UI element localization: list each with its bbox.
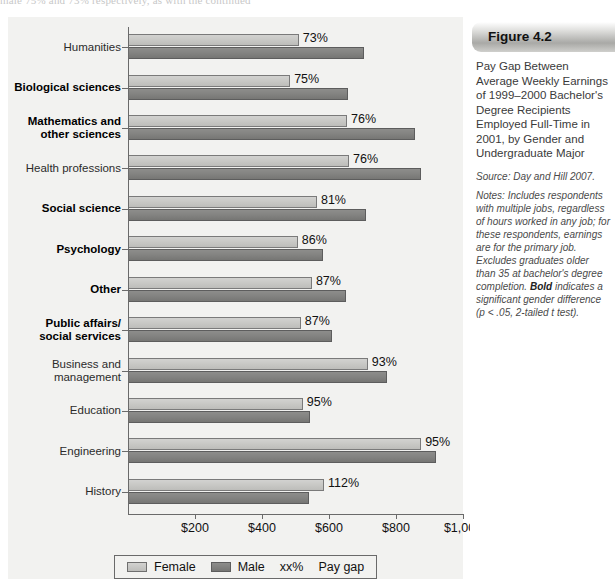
x-axis-tick (463, 514, 464, 519)
legend-swatch-female-icon (127, 562, 147, 572)
category-label: Humanities (0, 41, 121, 54)
figure-caption: Pay Gap Between Average Weekly Earnings … (476, 59, 610, 161)
x-axis-tick-label: $600 (315, 521, 343, 535)
bar-female (128, 277, 312, 289)
x-axis-tick (195, 514, 196, 519)
pay-gap-value-label: 112% (328, 476, 359, 490)
bar-male (128, 249, 323, 261)
bar-male (128, 290, 346, 302)
bar-female (128, 317, 301, 329)
x-axis-tick (396, 514, 397, 519)
pay-gap-value-label: 81% (321, 193, 346, 207)
figure-number-label: Figure 4.2 (488, 29, 552, 44)
y-axis-line (128, 27, 129, 514)
bar-male (128, 411, 310, 423)
x-axis-tick-label: $800 (382, 521, 410, 535)
category-label: Social science (0, 202, 121, 215)
pay-gap-value-label: 93% (372, 355, 397, 369)
pay-gap-value-label: 75% (294, 72, 319, 86)
chart-category-row: Mathematics and other sciences76% (128, 115, 463, 133)
chart-legend: Female Male xx% Pay gap (114, 555, 377, 579)
category-label: Business and management (0, 358, 121, 384)
pay-gap-value-label: 86% (302, 233, 327, 247)
category-label: Engineering (0, 445, 121, 458)
pay-gap-value-label: 95% (307, 395, 332, 409)
bar-female (128, 398, 303, 410)
category-label: Public affairs/ social services (0, 317, 121, 343)
category-label: Education (0, 404, 121, 417)
x-axis-tick (262, 514, 263, 519)
category-label: Health professions (0, 162, 121, 175)
pay-gap-value-label: 95% (425, 435, 450, 449)
category-label: Mathematics and other sciences (0, 115, 121, 141)
bar-female (128, 75, 290, 87)
category-label: Other (0, 283, 121, 296)
figure-notes-bold-keyword: Bold (530, 281, 552, 292)
chart-category-row: Biological sciences75% (128, 75, 463, 93)
x-axis-line (128, 514, 464, 515)
bar-female (128, 479, 324, 491)
bar-female (128, 115, 347, 127)
bar-male (128, 371, 387, 383)
category-label: Psychology (0, 243, 121, 256)
chart-category-row: Humanities73% (128, 34, 463, 52)
x-axis-tick (329, 514, 330, 519)
chart-category-row: Social science81% (128, 196, 463, 214)
figure-source: Source: Day and Hill 2007. (476, 170, 610, 183)
x-axis-tick-label: $400 (248, 521, 276, 535)
bar-female (128, 155, 349, 167)
chart-panel: Humanities73%Biological sciences75%Mathe… (8, 17, 463, 579)
figure-notes: Notes: Includes respondents with multipl… (476, 189, 610, 319)
x-axis-tick-label: $200 (181, 521, 209, 535)
bar-female (128, 236, 298, 248)
chart-category-row: Engineering95% (128, 438, 463, 456)
legend-label-gap-desc: Pay gap (318, 560, 364, 574)
chart-category-row: Public affairs/ social services87% (128, 317, 463, 335)
bar-female (128, 438, 421, 450)
chart-category-row: Psychology86% (128, 236, 463, 254)
bar-male (128, 492, 309, 504)
bar-male (128, 168, 421, 180)
bar-female (128, 358, 368, 370)
plot-area: Humanities73%Biological sciences75%Mathe… (128, 27, 463, 512)
pay-gap-value-label: 73% (303, 31, 328, 45)
chart-category-row: Other87% (128, 277, 463, 295)
chart-category-row: Education95% (128, 398, 463, 416)
bar-male (128, 330, 332, 342)
legend-swatch-male-icon (211, 562, 231, 572)
category-label: History (0, 485, 121, 498)
legend-label-male: Male (238, 560, 265, 574)
legend-label-gap-token: xx% (280, 560, 304, 574)
top-text-fragment-line: male 75% and 73% respectively, as with t… (0, 0, 251, 6)
pay-gap-value-label: 76% (351, 112, 376, 126)
chart-category-row: History112% (128, 479, 463, 497)
category-label: Biological sciences (0, 81, 121, 94)
figure-sidebar: Figure 4.2 Pay Gap Between Average Weekl… (470, 17, 615, 579)
bar-female (128, 196, 317, 208)
bar-male (128, 47, 364, 59)
pay-gap-value-label: 87% (305, 314, 330, 328)
page-body-text-fragment: male 75% and 73% respectively, as with t… (0, 0, 470, 12)
chart-category-row: Business and management93% (128, 358, 463, 376)
bar-female (128, 34, 299, 46)
pay-gap-value-label: 76% (353, 152, 378, 166)
bar-male (128, 451, 436, 463)
bar-male (128, 128, 415, 140)
pay-gap-value-label: 87% (316, 274, 341, 288)
chart-category-row: Health professions76% (128, 155, 463, 173)
legend-label-female: Female (154, 560, 196, 574)
bar-male (128, 88, 348, 100)
bar-male (128, 209, 366, 221)
